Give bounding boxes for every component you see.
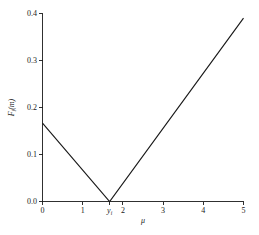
- y-tick-label: 0.0: [27, 197, 37, 206]
- y-axis-title: Fi(m): [7, 98, 17, 117]
- y-tick-label: 0.2: [27, 103, 37, 112]
- x-axis-tick-labels: 01yi2345: [41, 206, 246, 216]
- y-axis-tick-labels: 0.00.10.20.30.4: [27, 9, 37, 206]
- data-series-line: [43, 18, 244, 201]
- y-axis-title-text: Fi(m): [7, 98, 17, 117]
- x-tick-label: 2: [121, 206, 125, 215]
- x-tick-label: yi: [106, 206, 113, 216]
- line-chart: 0.00.10.20.30.4 01yi2345 Fi(m) μ: [0, 0, 259, 235]
- data-series-group: [43, 18, 244, 201]
- y-axis-tick-marks: [39, 14, 42, 202]
- y-tick-label: 0.3: [27, 56, 37, 65]
- x-tick-label: 1: [81, 206, 85, 215]
- x-tick-label: 4: [201, 206, 205, 215]
- y-tick-label: 0.1: [27, 150, 37, 159]
- x-axis-title: μ: [140, 216, 145, 225]
- x-tick-label: 3: [161, 206, 165, 215]
- y-tick-label: 0.4: [27, 9, 37, 18]
- x-axis-title-text: μ: [140, 216, 145, 225]
- x-tick-label: 0: [41, 206, 45, 215]
- x-axis-tick-marks: [43, 202, 244, 205]
- x-tick-label: 5: [242, 206, 246, 215]
- chart-figure: 0.00.10.20.30.4 01yi2345 Fi(m) μ: [0, 0, 259, 235]
